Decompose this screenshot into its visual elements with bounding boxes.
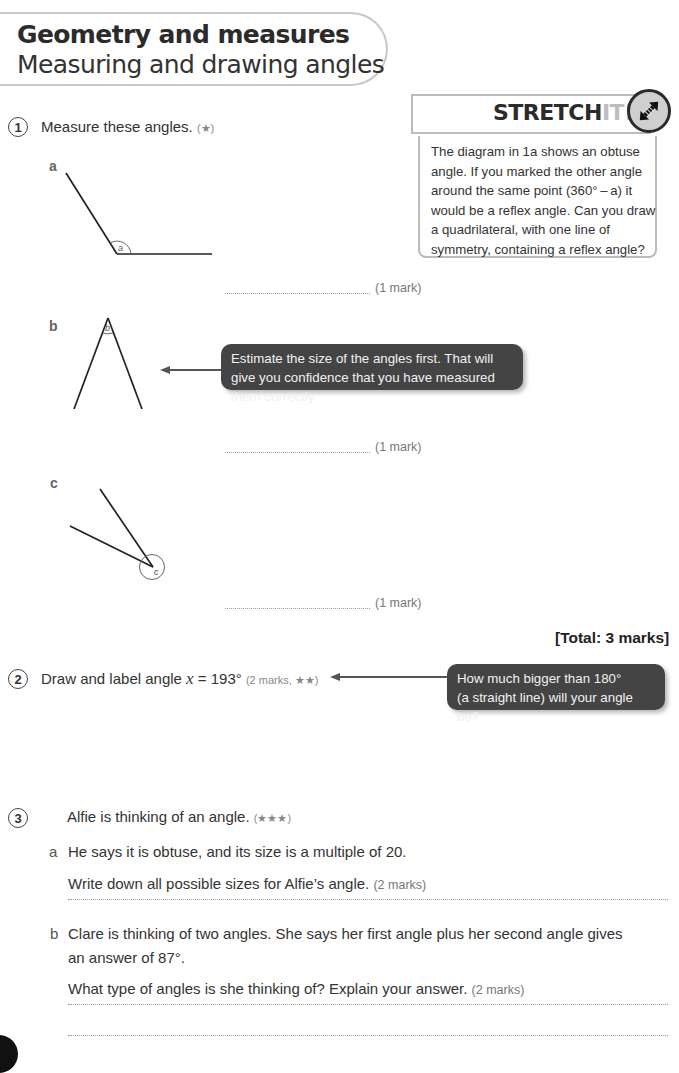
angle-label-a: a bbox=[118, 243, 123, 253]
question-number-3: 3 bbox=[8, 808, 28, 828]
q1-prompt: Measure these angles. (★) bbox=[41, 118, 214, 135]
stretch-it-label: STRETCHIT! bbox=[493, 100, 634, 125]
answer-line-3b-1[interactable] bbox=[68, 1004, 668, 1005]
q3-prompt: Alfie is thinking of an angle. (★★★) bbox=[67, 808, 291, 825]
q2-marks: (2 marks, ★★) bbox=[246, 674, 319, 686]
tip-bigger-than-180: How much bigger than 180° (a straight li… bbox=[447, 664, 665, 710]
q3b-line2: an answer of 87°. bbox=[68, 949, 185, 966]
marks-1a: (1 mark) bbox=[375, 281, 422, 295]
answer-line-1a[interactable] bbox=[225, 293, 370, 294]
part-label-a: a bbox=[49, 158, 57, 174]
q3-text: Alfie is thinking of an angle. bbox=[67, 808, 250, 825]
tip-estimate: Estimate the size of the angles first. T… bbox=[221, 344, 523, 390]
answer-line-1c[interactable] bbox=[225, 608, 370, 609]
stretch-it-text: The diagram in 1a shows an obtuse angle.… bbox=[431, 142, 656, 259]
answer-line-3a[interactable] bbox=[68, 899, 668, 900]
tip-pointer-line bbox=[336, 676, 448, 678]
q2-prompt: Draw and label angle x = 193° (2 marks, … bbox=[41, 669, 319, 689]
answer-line-3b-2[interactable] bbox=[68, 1035, 668, 1036]
q3b-instruction: What type of angles is she thinking of? … bbox=[68, 980, 467, 997]
part-label-3b: b bbox=[50, 925, 58, 942]
tip-line-2: (a straight line) will your angle be? bbox=[457, 688, 655, 726]
question-number-1: 1 bbox=[8, 117, 28, 137]
q2-angle-value: = 193° bbox=[198, 670, 242, 687]
q2-text: Draw and label angle bbox=[41, 670, 182, 687]
marks-3b: (2 marks) bbox=[472, 983, 525, 997]
q3a-line1: He says it is obtuse, and its size is a … bbox=[68, 843, 407, 860]
part-label-b: b bbox=[49, 318, 58, 334]
angle-label-b: b bbox=[105, 323, 110, 333]
angle-diagram-a: a bbox=[60, 165, 220, 265]
marks-1b: (1 mark) bbox=[375, 440, 422, 454]
difficulty-stars: (★) bbox=[197, 122, 214, 134]
double-arrow-icon bbox=[627, 89, 671, 133]
tip-pointer-line bbox=[166, 369, 222, 371]
q1-text: Measure these angles. bbox=[41, 118, 193, 135]
question-number-2: 2 bbox=[8, 669, 28, 689]
marks-3a: (2 marks) bbox=[373, 878, 426, 892]
part-label-c: c bbox=[50, 475, 58, 491]
page-subtitle: Measuring and drawing angles bbox=[17, 50, 384, 79]
marks-1c: (1 mark) bbox=[375, 596, 422, 610]
tip-line-1: How much bigger than 180° bbox=[457, 669, 655, 688]
q3a-instruction: Write down all possible sizes for Alfie’… bbox=[68, 875, 369, 892]
q3b-line3: What type of angles is she thinking of? … bbox=[68, 980, 524, 997]
page-title: Geometry and measures bbox=[17, 20, 349, 49]
q3a-line2: Write down all possible sizes for Alfie’… bbox=[68, 875, 426, 892]
difficulty-stars: (★★★) bbox=[254, 812, 291, 824]
part-label-3a: a bbox=[49, 843, 57, 860]
q3b-line1: Clare is thinking of two angles. She say… bbox=[68, 925, 622, 942]
page-number-tab bbox=[0, 1035, 18, 1073]
angle-diagram-b: b bbox=[70, 315, 150, 415]
answer-line-1b[interactable] bbox=[225, 452, 370, 453]
q2-variable: x bbox=[186, 669, 194, 688]
stretch-label-dark: STRETCH bbox=[493, 100, 602, 125]
total-marks: [Total: 3 marks] bbox=[555, 629, 669, 647]
angle-diagram-c: c bbox=[60, 480, 180, 580]
angle-label-c: c bbox=[154, 567, 159, 577]
